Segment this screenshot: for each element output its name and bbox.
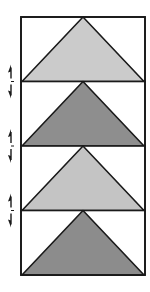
segment-dark (21, 211, 145, 276)
double-arrow-icon (8, 129, 14, 163)
joint-arrows (8, 65, 14, 228)
segment-dark (21, 82, 145, 147)
segment-light (21, 17, 145, 82)
double-arrow-icon (8, 65, 14, 99)
triangle-segments (21, 17, 145, 275)
stacked-triangles-diagram (0, 0, 150, 292)
double-arrow-icon (8, 194, 14, 228)
segment-light (21, 146, 145, 211)
